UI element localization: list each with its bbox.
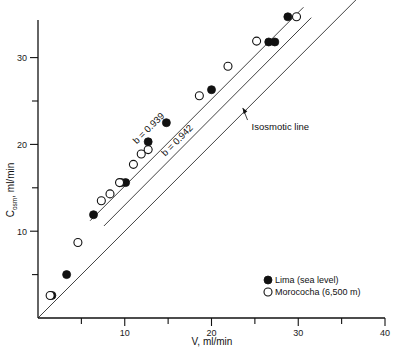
data-point-lima [90,211,98,219]
x-axis-ticks: 10203040 [81,318,390,338]
y-axis-tick-label: 20 [17,140,27,150]
y-axis-ticks: 102030 [17,53,38,275]
data-point-morococha [74,238,82,246]
annotations-group: b = 0.939b = 0.942Isosmotic line [130,108,309,158]
isosmotic-line [38,0,385,318]
legend-label: Lima (sea level) [275,275,339,285]
data-point-lima [63,271,71,279]
svg-text:Cosm, ml/min: Cosm, ml/min [5,163,18,218]
data-point-morococha [253,37,261,45]
legend-marker-lima [264,276,272,284]
x-axis-tick-label: 30 [293,328,303,338]
data-point-lima [144,138,152,146]
x-axis-title-label: V, ml/min [192,336,233,347]
data-point-lima [284,13,292,21]
isosmotic-line-group [38,0,385,318]
x-axis-title: V, ml/min [192,336,233,347]
data-point-morococha [293,13,301,21]
data-point-lima [271,38,279,46]
legend-label: Morococha (6,500 m) [275,287,361,297]
y-axis-title: Cosm, ml/min [5,163,18,218]
y-axis-title-subscript: osm [11,198,18,210]
isosmotic-line-label: Isosmotic line [252,121,310,132]
data-point-morococha [106,190,114,198]
data-point-morococha [129,160,137,168]
y-axis-tick-label: 30 [17,53,27,63]
chart-figure: 102030 10203040 b = 0.939b = 0.942Isosmo… [0,0,395,353]
axes [38,20,385,318]
data-point-morococha [224,62,232,70]
y-axis-tick-label: 10 [17,227,27,237]
scatter-plot-canvas: 102030 10203040 b = 0.939b = 0.942Isosmo… [0,0,395,353]
chart-legend: Lima (sea level)Morococha (6,500 m) [264,275,361,297]
data-point-morococha [144,146,152,154]
data-point-morococha [116,179,124,187]
x-axis-tick-label: 40 [380,328,390,338]
data-point-morococha [46,291,54,299]
x-axis-tick-label: 10 [120,328,130,338]
y-axis-title-tail: , ml/min [5,163,16,198]
data-point-lima [208,86,216,94]
legend-marker-morococha [264,288,272,296]
data-point-morococha [97,197,105,205]
data-point-morococha [195,92,203,100]
y-axis-title-main: C [5,210,16,217]
